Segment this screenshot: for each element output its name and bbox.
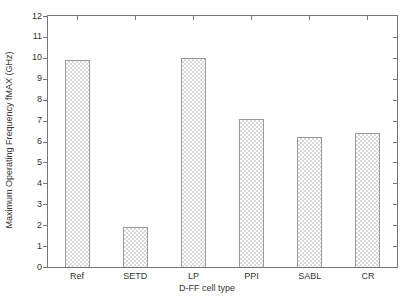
bar	[355, 133, 380, 267]
x-tick-label: Ref	[52, 271, 102, 281]
y-tick-mark	[393, 162, 397, 163]
y-tick-mark	[43, 37, 47, 38]
y-tick-mark	[393, 79, 397, 80]
y-tick-label: 1	[2, 241, 42, 252]
y-tick-mark	[393, 37, 397, 38]
x-tick-label: SABL	[285, 271, 335, 281]
y-tick-mark	[43, 58, 47, 59]
y-tick-mark	[393, 58, 397, 59]
y-tick-mark	[393, 225, 397, 226]
y-tick-mark	[43, 183, 47, 184]
y-tick-label: 9	[2, 73, 42, 84]
y-tick-mark	[393, 121, 397, 122]
bar	[181, 58, 206, 267]
bar	[65, 60, 90, 267]
x-tick-mark	[367, 16, 368, 20]
y-tick-mark	[43, 267, 47, 268]
x-tick-mark	[251, 16, 252, 20]
y-tick-label: 10	[2, 52, 42, 63]
x-tick-mark	[309, 16, 310, 20]
y-tick-mark	[43, 79, 47, 80]
y-tick-label: 0	[2, 262, 42, 273]
y-tick-mark	[43, 100, 47, 101]
y-tick-label: 2	[2, 220, 42, 231]
x-tick-mark	[135, 16, 136, 20]
y-tick-label: 6	[2, 136, 42, 147]
y-tick-label: 8	[2, 94, 42, 105]
y-tick-mark	[393, 246, 397, 247]
bar-chart-figure: Maximum Operating Frequency fMAX (GHz) 0…	[0, 0, 407, 300]
x-tick-label: SETD	[110, 271, 160, 281]
y-tick-label: 5	[2, 157, 42, 168]
x-tick-label: CR	[343, 271, 393, 281]
y-tick-label: 3	[2, 199, 42, 210]
y-tick-label: 4	[2, 178, 42, 189]
y-tick-mark	[43, 162, 47, 163]
bar	[239, 119, 264, 268]
y-tick-mark	[393, 183, 397, 184]
x-tick-label: LP	[168, 271, 218, 281]
x-tick-mark	[193, 16, 194, 20]
y-tick-mark	[393, 100, 397, 101]
bar	[123, 227, 148, 267]
y-tick-mark	[43, 121, 47, 122]
y-tick-label: 11	[2, 31, 42, 42]
x-axis-title: D-FF cell type	[107, 283, 307, 293]
y-tick-mark	[393, 204, 397, 205]
y-tick-mark	[43, 204, 47, 205]
x-tick-mark	[77, 16, 78, 20]
y-tick-mark	[393, 142, 397, 143]
y-tick-label: 12	[2, 11, 42, 22]
x-tick-label: PPI	[227, 271, 277, 281]
y-tick-mark	[43, 142, 47, 143]
bar	[297, 137, 322, 267]
plot-area: 0123456789101112RefSETDLPPPISABLCR	[47, 15, 398, 268]
y-tick-mark	[43, 225, 47, 226]
y-tick-label: 7	[2, 115, 42, 126]
y-tick-mark	[43, 246, 47, 247]
y-tick-mark	[43, 16, 47, 17]
